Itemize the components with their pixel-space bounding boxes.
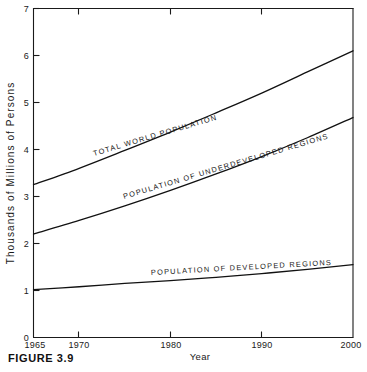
series-labels: TOTAL WORLD POPULATION POPULATION OF UND…: [92, 113, 332, 277]
x-axis-ticks: [79, 9, 262, 338]
population-line-chart: 7 6 5 4 3 2 1 0 1965 1970 1980 1990 2000: [0, 0, 367, 372]
x-axis-tick-labels: 1965 1970 1980 1990 2000: [25, 340, 362, 350]
y-tick-label-1: 1: [24, 286, 29, 296]
y-tick-label-5: 5: [24, 98, 29, 108]
series-label-total-world-population: TOTAL WORLD POPULATION: [92, 113, 218, 158]
x-axis-title: Year: [190, 351, 210, 362]
x-tick-label-2000: 2000: [341, 340, 362, 350]
x-tick-label-1965: 1965: [25, 340, 46, 350]
x-tick-label-1970: 1970: [69, 340, 90, 350]
y-axis-ticks: [34, 9, 40, 291]
series-label-underdeveloped-regions: POPULATION OF UNDERDEVELOPED REGIONS: [122, 131, 330, 200]
series-label-developed-regions: POPULATION OF DEVELOPED REGIONS: [151, 258, 333, 277]
x-tick-label-1990: 1990: [252, 340, 273, 350]
figure-page: 7 6 5 4 3 2 1 0 1965 1970 1980 1990 2000: [0, 0, 367, 372]
y-tick-label-2: 2: [24, 239, 29, 249]
curve-total-world-population: [34, 51, 354, 185]
y-axis-title: Thousands of Millions of Persons: [5, 82, 16, 265]
y-tick-label-4: 4: [24, 145, 29, 155]
x-tick-label-1980: 1980: [161, 340, 182, 350]
y-tick-label-6: 6: [24, 51, 29, 61]
y-axis-tick-labels: 7 6 5 4 3 2 1 0: [24, 4, 29, 343]
y-tick-label-3: 3: [24, 192, 29, 202]
figure-caption: FIGURE 3.9: [8, 352, 74, 364]
y-tick-label-7: 7: [24, 4, 29, 14]
